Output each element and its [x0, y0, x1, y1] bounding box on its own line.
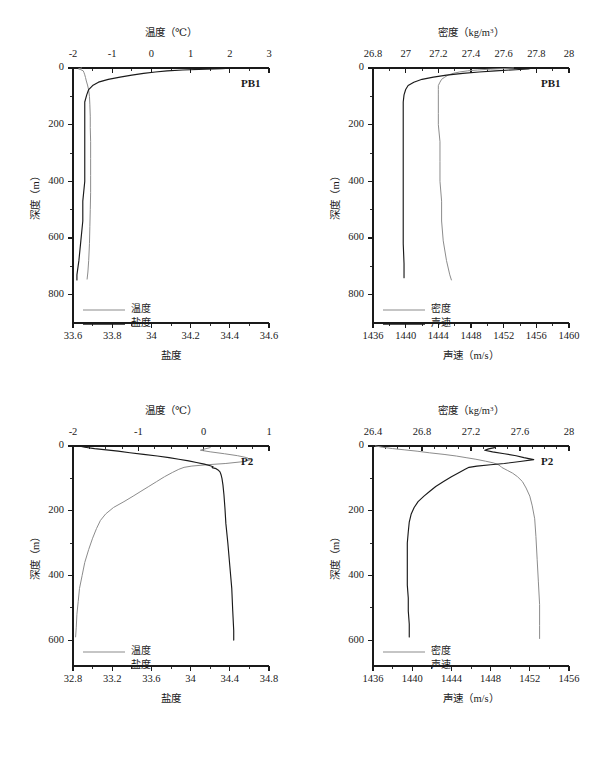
top-axis-tick-label-4-top_left: 2 — [227, 48, 232, 59]
top-axis-title-bottom_left: 温度（℃） — [145, 404, 197, 416]
bottom-axis-tick-label-5-bottom_left: 34.8 — [260, 673, 278, 684]
legend-label-盐度-top_left: 盐度 — [131, 316, 151, 328]
bottom-axis-tick-label-3-top_left: 34.2 — [181, 330, 199, 341]
bottom-axis-tick-label-4-top_left: 34.4 — [221, 330, 240, 341]
y-axis-title-bottom_left: 深度（m） — [29, 532, 41, 580]
series-line-温度-bottom_left — [76, 448, 251, 637]
chart-svg-bottom_right: 26.426.827.227.6281436144014441448145214… — [314, 388, 610, 774]
bottom-axis-tick-label-2-top_right: 1444 — [428, 330, 450, 341]
top-axis-tick-label-3-top_left: 1 — [188, 48, 193, 59]
bottom-axis-tick-label-1-top_left: 33.8 — [103, 330, 121, 341]
top-axis-tick-label-2-bottom_right: 27.2 — [462, 426, 480, 437]
bottom-axis-title-top_right: 声速（m/s） — [443, 349, 498, 361]
top-axis-tick-label-1-bottom_right: 26.8 — [413, 426, 431, 437]
y-axis-tick-label-3-top_left: 600 — [48, 231, 64, 242]
legend-label-密度-bottom_right: 密度 — [431, 644, 451, 656]
bottom-axis-tick-label-3-bottom_left: 34 — [185, 673, 196, 684]
top-axis-tick-label-3-bottom_right: 27.6 — [511, 426, 529, 437]
bottom-axis-tick-label-2-bottom_left: 33.6 — [142, 673, 160, 684]
top-axis-tick-label-5-top_left: 3 — [266, 48, 271, 59]
top-axis-tick-label-6-top_right: 28 — [564, 48, 575, 59]
top-axis-title-bottom_right: 密度（kg/m3） — [438, 404, 503, 416]
top-axis-tick-label-4-bottom_right: 28 — [564, 426, 575, 437]
bottom-axis-title-bottom_left: 盐度 — [161, 692, 182, 704]
top-axis-tick-label-2-bottom_left: 0 — [201, 426, 206, 437]
y-axis-tick-label-2-top_right: 400 — [348, 175, 364, 186]
top-axis-tick-label-1-top_right: 27 — [400, 48, 411, 59]
top-axis-tick-label-3-top_right: 27.4 — [462, 48, 481, 59]
y-axis-tick-label-1-top_right: 200 — [348, 118, 364, 129]
bottom-axis-tick-label-4-bottom_right: 1452 — [519, 673, 540, 684]
bottom-axis-tick-label-1-top_right: 1440 — [395, 330, 416, 341]
legend-label-盐度-bottom_left: 盐度 — [131, 658, 151, 670]
top-axis-tick-label-3-bottom_left: 1 — [266, 426, 271, 437]
y-axis-title-top_left: 深度（m） — [29, 171, 41, 219]
series-line-声速-bottom_right — [407, 448, 533, 637]
legend-label-声速-bottom_right: 声速 — [431, 658, 451, 670]
station-label-top_right: PB1 — [541, 77, 561, 89]
y-axis-tick-label-4-top_right: 800 — [348, 288, 364, 299]
station-label-top_left: PB1 — [241, 77, 261, 89]
bottom-axis-tick-label-3-bottom_right: 1448 — [480, 673, 501, 684]
series-line-盐度-bottom_left — [79, 446, 234, 640]
bottom-axis-tick-label-0-bottom_right: 1436 — [363, 673, 384, 684]
top-axis-tick-label-2-top_right: 27.2 — [429, 48, 447, 59]
y-axis-tick-label-0-top_left: 0 — [59, 61, 64, 72]
bottom-axis-tick-label-2-bottom_right: 1444 — [441, 673, 463, 684]
series-line-盐度-top_left — [77, 68, 234, 280]
bottom-axis-tick-label-0-bottom_left: 32.8 — [64, 673, 82, 684]
top-axis-tick-label-1-top_left: -1 — [108, 48, 117, 59]
top-axis-tick-label-0-top_left: -2 — [69, 48, 78, 59]
chart-panel-bottom_right: 26.426.827.227.6281436144014441448145214… — [314, 388, 610, 774]
series-line-声速-top_right — [403, 68, 533, 278]
chart-svg-top_left: -2-1012333.633.83434.234.434.60200400600… — [14, 10, 310, 388]
y-axis-tick-label-2-bottom_right: 400 — [348, 569, 364, 580]
series-line-密度-bottom_right — [375, 446, 539, 639]
chart-svg-top_right: 26.82727.227.427.627.8281436144014441448… — [314, 10, 610, 388]
y-axis-tick-label-0-bottom_left: 0 — [59, 439, 64, 450]
bottom-axis-tick-label-5-top_left: 34.6 — [260, 330, 278, 341]
y-axis-title-top_right: 深度（m） — [329, 171, 341, 219]
bottom-axis-tick-label-3-top_right: 1448 — [461, 330, 482, 341]
bottom-axis-tick-label-5-bottom_right: 1456 — [559, 673, 580, 684]
top-axis-title-top_left: 温度（℃） — [145, 26, 197, 38]
top-axis-tick-label-0-bottom_left: -2 — [69, 426, 78, 437]
bottom-axis-tick-label-1-bottom_left: 33.2 — [103, 673, 121, 684]
legend-label-温度-top_left: 温度 — [131, 302, 151, 314]
bottom-axis-tick-label-5-top_right: 1456 — [526, 330, 547, 341]
chart-panel-top_right: 26.82727.227.427.627.8281436144014441448… — [314, 10, 610, 388]
bottom-axis-title-top_left: 盐度 — [161, 349, 182, 361]
y-axis-tick-label-4-top_left: 800 — [48, 288, 64, 299]
y-axis-tick-label-2-top_left: 400 — [48, 175, 64, 186]
bottom-axis-tick-label-6-top_right: 1460 — [559, 330, 580, 341]
station-label-bottom_right: P2 — [541, 455, 554, 467]
bottom-axis-tick-label-4-bottom_left: 34.4 — [221, 673, 240, 684]
bottom-axis-tick-label-0-top_left: 33.6 — [64, 330, 82, 341]
chart-svg-bottom_left: -2-10132.833.233.63434.434.80200400600温度… — [14, 388, 310, 774]
series-line-密度-top_right — [438, 68, 513, 280]
y-axis-tick-label-1-bottom_left: 200 — [48, 504, 64, 515]
y-axis-tick-label-0-bottom_right: 0 — [359, 439, 364, 450]
y-axis-tick-label-3-top_right: 600 — [348, 231, 364, 242]
legend-label-温度-bottom_left: 温度 — [131, 644, 151, 656]
bottom-axis-tick-label-2-top_left: 34 — [146, 330, 157, 341]
y-axis-tick-label-0-top_right: 0 — [359, 61, 364, 72]
y-axis-tick-label-3-bottom_left: 600 — [48, 634, 64, 645]
bottom-axis-title-bottom_right: 声速（m/s） — [443, 692, 498, 704]
y-axis-tick-label-3-bottom_right: 600 — [348, 634, 364, 645]
top-axis-title-top_right: 密度（kg/m3） — [438, 26, 503, 38]
legend-label-声速-top_right: 声速 — [431, 316, 451, 328]
y-axis-tick-label-1-top_left: 200 — [48, 118, 64, 129]
top-axis-tick-label-4-top_right: 27.6 — [494, 48, 512, 59]
bottom-axis-tick-label-0-top_right: 1436 — [363, 330, 384, 341]
y-axis-tick-label-1-bottom_right: 200 — [348, 504, 364, 515]
top-axis-tick-label-0-bottom_right: 26.4 — [364, 426, 383, 437]
chart-panel-top_left: -2-1012333.633.83434.234.434.60200400600… — [14, 10, 310, 388]
top-axis-tick-label-1-bottom_left: -1 — [134, 426, 143, 437]
bottom-axis-tick-label-1-bottom_right: 1440 — [402, 673, 423, 684]
legend-label-密度-top_right: 密度 — [431, 302, 451, 314]
figure-container: -2-1012333.633.83434.234.434.60200400600… — [0, 0, 610, 774]
y-axis-title-bottom_right: 深度（m） — [329, 532, 341, 580]
chart-panel-bottom_left: -2-10132.833.233.63434.434.80200400600温度… — [14, 388, 310, 774]
y-axis-tick-label-2-bottom_left: 400 — [48, 569, 64, 580]
